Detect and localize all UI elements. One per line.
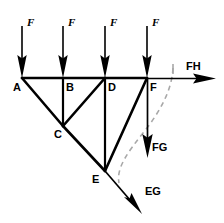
node-label-C: C [54, 129, 62, 140]
reaction-arrow-EG [105, 171, 142, 214]
reaction-label-FH: FH [186, 61, 201, 72]
truss-drawing-canvas [0, 0, 224, 223]
reaction-label-FG: FG [152, 142, 167, 153]
truss-diagram: A B C D E F F F F F FH FG EG [0, 0, 224, 223]
load-label-4: F [152, 17, 159, 28]
member-diagonal-A-C [22, 78, 63, 126]
load-arrow-1 [17, 26, 26, 78]
load-arrow-2 [58, 26, 67, 78]
member-diagonal-C-E [63, 126, 105, 171]
node-label-F: F [150, 82, 157, 93]
node-label-A: A [13, 82, 21, 93]
load-label-1: F [27, 17, 34, 28]
node-label-E: E [92, 174, 99, 185]
load-arrow-3 [100, 26, 109, 78]
node-label-B: B [66, 82, 74, 93]
load-label-2: F [68, 17, 75, 28]
load-label-3: F [110, 17, 117, 28]
load-arrow-4 [142, 26, 151, 78]
reaction-arrow-FH [147, 74, 216, 84]
truss-members [22, 78, 147, 171]
applied-loads [17, 26, 151, 78]
reaction-label-EG: EG [145, 186, 161, 197]
node-label-D: D [108, 82, 116, 93]
